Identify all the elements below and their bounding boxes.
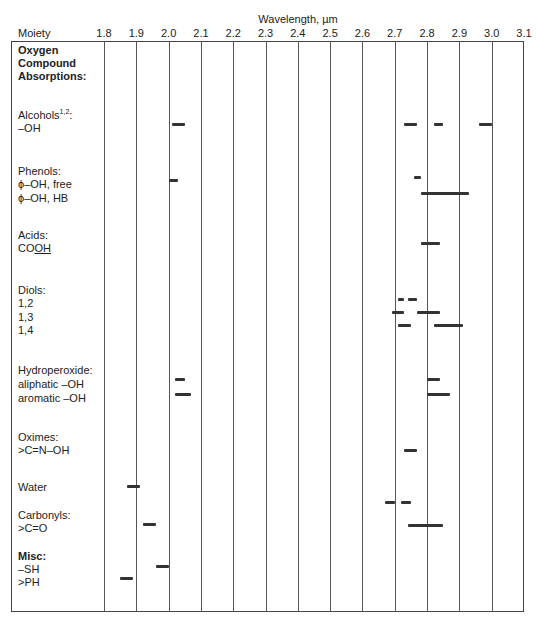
moiety-label-oxygen-3: Absorptions:	[18, 70, 86, 83]
absorption-bar	[434, 324, 463, 327]
absorption-bar	[408, 524, 444, 527]
moiety-label-carbonyl-group: >C=O	[18, 522, 47, 535]
gridline	[169, 41, 170, 612]
absorption-bar	[143, 523, 156, 526]
absorption-bar	[120, 577, 133, 580]
moiety-label-phenol-free: ϕ–OH, free	[18, 178, 72, 191]
moiety-column-header: Moiety	[18, 27, 50, 39]
gridline	[104, 41, 105, 612]
moiety-label-oxime-group: >C=N–OH	[18, 444, 69, 457]
absorption-bar	[156, 565, 169, 568]
moiety-label-misc: Misc:	[18, 550, 46, 563]
absorption-bar	[385, 501, 395, 504]
absorption-bar	[175, 393, 191, 396]
gridline	[201, 41, 202, 612]
absorption-bar	[421, 192, 469, 195]
x-tick-label: 2.8	[419, 27, 434, 39]
moiety-label-diol-14: 1,4	[18, 324, 33, 337]
absorption-bar	[398, 324, 411, 327]
gridline	[233, 41, 234, 612]
absorption-bar	[172, 123, 185, 126]
gridline	[298, 41, 299, 612]
absorption-bar	[401, 501, 411, 504]
x-tick-label: 2.7	[387, 27, 402, 39]
moiety-label-oxygen-1: Oxygen	[18, 44, 58, 57]
x-tick-label: 2.3	[258, 27, 273, 39]
gridline	[492, 41, 493, 612]
x-tick-label: 2.2	[226, 27, 241, 39]
moiety-label-ph: >PH	[18, 576, 40, 589]
absorption-bar	[169, 179, 179, 182]
moiety-label-diol-12: 1,2	[18, 297, 33, 310]
moiety-label-hp-aromatic: aromatic –OH	[18, 392, 86, 405]
x-tick-label: 2.6	[355, 27, 370, 39]
moiety-label-sh: –SH	[18, 563, 39, 576]
moiety-label-water: Water	[18, 481, 47, 494]
moiety-label-carbonyls: Carbonyls:	[18, 509, 71, 522]
absorption-bar	[404, 449, 417, 452]
x-tick-label: 2.9	[452, 27, 467, 39]
absorption-bar	[417, 311, 440, 314]
gridline	[330, 41, 331, 612]
x-tick-label: 1.9	[129, 27, 144, 39]
moiety-label-phenol-hb: ϕ–OH, HB	[18, 192, 68, 205]
absorption-bar	[414, 176, 420, 179]
moiety-label-alcohols: Alcohols1,2:	[18, 109, 72, 122]
x-tick-label: 1.8	[96, 27, 111, 39]
x-tick-label: 3.0	[484, 27, 499, 39]
absorption-bar	[434, 123, 444, 126]
x-tick-label: 2.4	[290, 27, 305, 39]
moiety-label-diol-13: 1,3	[18, 311, 33, 324]
absorption-bar	[427, 393, 450, 396]
moiety-label-oximes: Oximes:	[18, 431, 58, 444]
gridline	[266, 41, 267, 612]
absorption-bar	[398, 298, 404, 301]
moiety-label-alcohols-oh: –OH	[18, 122, 41, 135]
absorption-bar	[427, 378, 440, 381]
absorption-bar	[408, 298, 418, 301]
absorption-bar	[392, 311, 405, 314]
moiety-label-diols: Diols:	[18, 284, 46, 297]
gridline	[136, 41, 137, 612]
x-tick-label: 2.1	[193, 27, 208, 39]
moiety-label-oxygen-2: Compound	[18, 57, 76, 70]
gridline	[362, 41, 363, 612]
absorption-bar	[479, 123, 492, 126]
absorption-bar	[175, 378, 185, 381]
absorption-bar	[421, 242, 440, 245]
x-tick-label: 3.1	[516, 27, 531, 39]
moiety-label-hp-aliphatic: aliphatic –OH	[18, 378, 84, 391]
x-axis-title: Wavelength, µm	[0, 13, 536, 25]
x-tick-label: 2.0	[161, 27, 176, 39]
moiety-label-acids: Acids:	[18, 229, 48, 242]
absorption-bar	[127, 485, 140, 488]
moiety-label-cooh: COOH	[18, 242, 51, 255]
gridline	[395, 41, 396, 612]
absorption-bar	[404, 123, 417, 126]
moiety-label-hydroperoxide: Hydroperoxide:	[18, 364, 93, 377]
moiety-label-phenols: Phenols:	[18, 165, 61, 178]
x-tick-label: 2.5	[322, 27, 337, 39]
